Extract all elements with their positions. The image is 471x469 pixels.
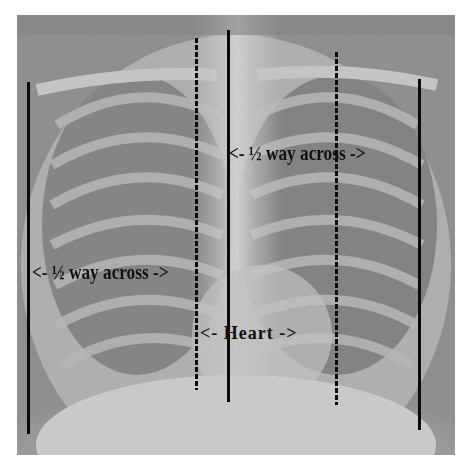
upper-half-way-across-label: <- ½ way across ->	[229, 143, 365, 164]
left-heart-boundary-dashed-line	[195, 38, 198, 390]
chest-xray-image	[17, 15, 455, 455]
xray-background	[17, 15, 455, 455]
left-half-way-across-label: <- ½ way across ->	[32, 262, 168, 283]
right-heart-boundary-dashed-line	[335, 52, 338, 405]
right-chest-boundary-line	[418, 79, 421, 430]
midline-solid-line	[227, 30, 230, 402]
left-chest-boundary-line	[27, 82, 30, 434]
heart-width-label: <- Heart ->	[200, 324, 297, 342]
